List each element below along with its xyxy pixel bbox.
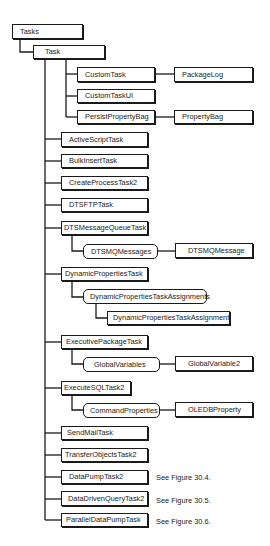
node-command-properties: CommandProperties <box>83 403 160 418</box>
node-tasks: Tasks <box>12 24 83 39</box>
node-dpt-assignment: DynamicPropertiesTaskAssignment <box>107 311 230 325</box>
node-oledb-property: OLEDBProperty <box>175 402 253 417</box>
node-custom-task: CustomTask <box>77 67 155 82</box>
node-data-driven-query-task2: DataDrivenQueryTask2 <box>61 491 148 506</box>
node-execute-sql-task2: ExecuteSQLTask2 <box>61 381 131 395</box>
node-persist-property-bag: PersistPropertyBag <box>77 110 155 124</box>
node-dts-message-queue-task: DTSMessageQueueTask <box>61 221 148 235</box>
dts-task-object-hierarchy: Tasks Task CustomTask PackageLog CustomT… <box>0 0 270 546</box>
node-dtsmq-messages: DTSMQMessages <box>83 244 158 259</box>
note-parallel-data-pump: See Figure 30.6. <box>156 517 211 526</box>
node-parallel-data-pump-task: ParallelDataPumpTask <box>61 513 148 527</box>
note-data-pump: See Figure 30.4. <box>156 473 211 482</box>
node-dynamic-properties-task: DynamicPropertiesTask <box>61 267 148 281</box>
node-bulk-insert-task: BulkInsertTask <box>61 154 148 168</box>
node-global-variables: GlobalVariables <box>83 357 160 372</box>
node-data-pump-task2: DataPumpTask2 <box>61 470 148 484</box>
node-dtsmq-message: DTSMQMessage <box>175 243 253 258</box>
node-task: Task <box>33 45 105 59</box>
node-dpt-assignments: DynamicPropertiesTaskAssignments <box>83 289 207 304</box>
node-package-log: PackageLog <box>174 67 253 82</box>
node-executive-package-task: ExecutivePackageTask <box>61 335 148 349</box>
node-create-process-task2: CreateProcessTask2 <box>61 176 148 190</box>
note-data-driven-query: See Figure 30.5. <box>156 496 211 505</box>
node-dtsftp-task: DTSFTPTask <box>61 198 148 212</box>
node-custom-task-ui: CustomTaskUI <box>77 89 155 103</box>
node-send-mail-task: SendMailTask <box>61 426 148 440</box>
node-property-bag: PropertyBag <box>174 110 253 124</box>
node-transfer-objects-task2: TransferObjectsTask2 <box>61 448 148 462</box>
node-active-script-task: ActiveScriptTask <box>61 132 148 147</box>
node-global-variable2: GlobalVariable2 <box>175 356 253 371</box>
